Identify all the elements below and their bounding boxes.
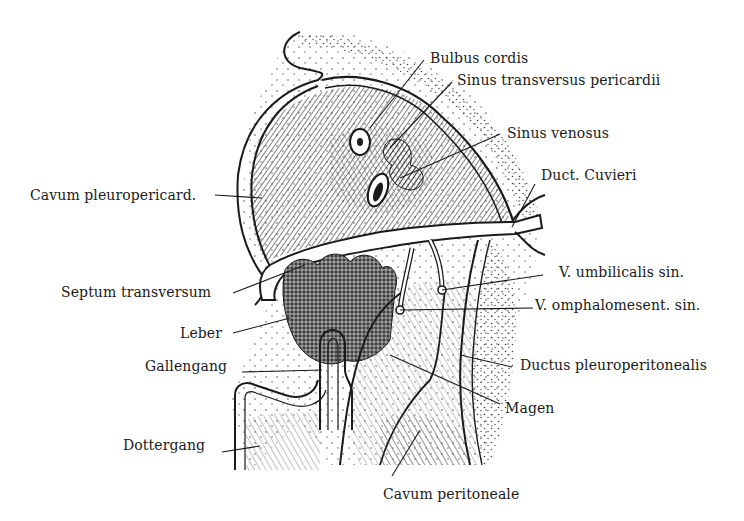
dottergang-shading	[246, 410, 320, 470]
label-septum-transversum: Septum transversum	[61, 284, 211, 300]
label-cavum-pleuropericard: Cavum pleuropericard.	[30, 187, 196, 203]
label-v-umbilicalis-sin: V. umbilicalis sin.	[559, 264, 684, 280]
label-bulbus-cordis: Bulbus cordis	[430, 50, 528, 66]
anatomical-figure: Bulbus cordis Sinus transversus pericard…	[0, 0, 744, 521]
label-v-omphalomesent-sin: V. omphalomesent. sin.	[535, 297, 700, 313]
label-sinus-transversus-pericardii: Sinus transversus pericardii	[457, 72, 660, 88]
label-cavum-peritoneale: Cavum peritoneale	[383, 486, 519, 502]
label-duct-cuvieri: Duct. Cuvieri	[541, 167, 636, 183]
label-sinus-venosus: Sinus venosus	[507, 125, 609, 141]
label-ductus-pleuroperitonealis: Ductus pleuroperitonealis	[520, 357, 707, 373]
label-magen: Magen	[505, 400, 554, 416]
label-gallengang: Gallengang	[145, 358, 227, 374]
label-leber: Leber	[180, 325, 222, 341]
label-dottergang: Dottergang	[123, 437, 205, 453]
